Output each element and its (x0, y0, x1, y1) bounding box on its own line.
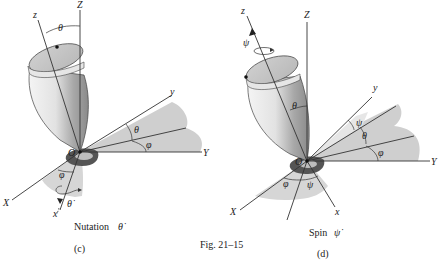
figure-canvas: Z z θ y Y θ φ X x φ θ̇ (0, 0, 438, 262)
psi-label-lower: ψ (307, 179, 314, 190)
spinning-top-body (29, 68, 88, 152)
theta-dot-label: θ̇ (67, 198, 75, 209)
panel-title-word: Spin (309, 227, 327, 238)
reference-dot (244, 75, 248, 79)
origin-label: O (68, 147, 75, 158)
theta-arc-top (46, 26, 80, 33)
panel-title-word: Nutation (74, 221, 109, 232)
x-axis-label: x (334, 206, 340, 217)
phi-label-plane: φ (146, 139, 152, 150)
X-axis-label: X (229, 206, 237, 217)
panel-d-spin: Z z ψ θ y Y ψ θ φ X x φ (229, 5, 438, 260)
Y-axis-label: Y (431, 156, 438, 167)
panel-c-nutation: Z z θ y Y θ φ X x φ θ̇ (2, 0, 210, 255)
panel-label: (d) (317, 248, 329, 260)
X-axis-label: X (2, 197, 10, 208)
z-axis-label: z (32, 9, 37, 20)
origin-point (305, 159, 309, 163)
theta-label-body: θ (292, 100, 297, 111)
origin-point (78, 150, 82, 154)
theta-label-top: θ (58, 22, 63, 33)
phi-label-lower: φ (283, 178, 289, 189)
theta-label-plane: θ (362, 130, 367, 141)
psi-label-plane: ψ (356, 117, 363, 128)
y-axis-label: y (372, 82, 378, 93)
Y-axis-label: Y (203, 147, 210, 158)
Z-axis-label: Z (304, 9, 310, 20)
x-axis-label: x (52, 208, 58, 219)
origin-label: O (295, 156, 302, 167)
panel-title-symbol: θ̇ (118, 221, 126, 232)
psi-label-top: ψ (243, 37, 250, 48)
phi-label-plane: φ (378, 147, 384, 158)
panel-label: (c) (74, 243, 85, 255)
y-axis-label: y (169, 86, 175, 97)
panel-title-symbol: ψ̇ (334, 227, 343, 238)
Z-axis-label: Z (77, 0, 83, 10)
figure-caption: Fig. 21–15 (200, 239, 243, 250)
reference-dot (55, 45, 59, 49)
theta-label-plane: θ (134, 124, 139, 135)
phi-label-lower: φ (59, 169, 65, 180)
z-axis-label: z (240, 5, 245, 16)
